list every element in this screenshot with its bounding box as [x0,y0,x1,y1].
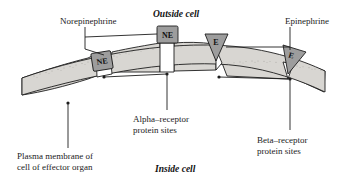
label-outside-cell: Outside cell [153,9,200,19]
label-norepinephrine: Norepinephrine [60,16,116,26]
alpha-connector-line [104,74,167,77]
ligand-ne-chip-1: NE [91,51,114,72]
ne-chip-1-label: NE [96,56,108,67]
label-beta-receptor-line1: Beta–receptor [257,135,307,145]
alpha-receptor-socket-2 [160,43,174,72]
label-alpha-receptor-line2: protein sites [133,125,177,135]
ne-chip-2-label: NE [162,31,173,40]
label-beta-receptor-line2: protein sites [257,146,301,156]
autonomic-receptor-diagram: NE NE E E Norep [0,0,348,184]
alpha-connector-node-1 [102,75,105,78]
beta-connector-node-1 [217,75,220,78]
plasma-membrane-leader-node [66,101,69,104]
epinephrine-leader [226,27,290,50]
label-inside-cell: Inside cell [154,164,196,174]
label-epinephrine: Epinephrine [285,16,329,26]
membrane-figure: NE NE E E Norep [0,0,348,184]
ligand-ne-chip-2: NE [157,26,178,43]
label-plasma-membrane-line1: Plasma membrane of [17,151,93,161]
e-chip-1-label: E [213,38,218,47]
label-plasma-membrane-line2: cell of effector organ [17,162,93,172]
label-alpha-receptor-line1: Alpha–receptor [133,114,189,124]
